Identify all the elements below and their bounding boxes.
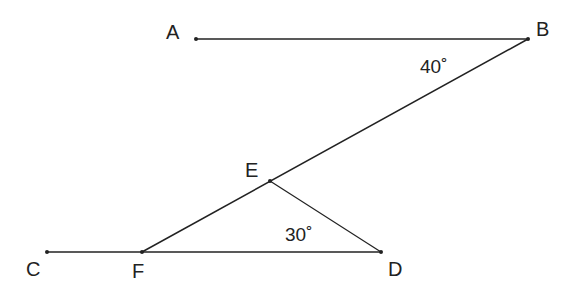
point-f (140, 250, 144, 254)
point-c (45, 250, 49, 254)
label-d: D (388, 258, 402, 280)
point-b (526, 37, 530, 41)
label-f: F (132, 260, 144, 282)
segment-bf (142, 39, 528, 252)
label-a: A (166, 21, 180, 43)
point-e (268, 179, 272, 183)
angle-b-label: 40˚ (420, 56, 447, 77)
label-b: B (536, 18, 549, 40)
geometry-diagram: A B C D E F 40˚ 30˚ (0, 0, 576, 295)
point-a (194, 37, 198, 41)
angle-d-label: 30˚ (285, 224, 312, 245)
point-d (379, 250, 383, 254)
label-e: E (245, 159, 258, 181)
label-c: C (26, 258, 40, 280)
